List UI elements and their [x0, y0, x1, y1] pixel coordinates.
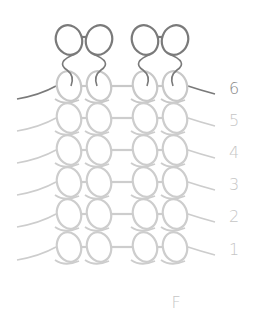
- yarn-lead-out: [188, 214, 215, 222]
- stitch-loop: [160, 100, 191, 135]
- yarn-lead-out: [188, 86, 215, 94]
- yarn-lead-in: [17, 247, 56, 260]
- stitch-loop: [130, 196, 161, 231]
- yarn-lead-in: [17, 214, 56, 227]
- top-loop: [128, 21, 163, 58]
- stitch-loop: [54, 132, 85, 167]
- stitch-row-2: [17, 196, 215, 231]
- stitch-row-6: [17, 68, 215, 103]
- stitch-loop: [130, 68, 161, 103]
- stitch-loop: [84, 164, 115, 199]
- stitch-row-3: [17, 164, 215, 199]
- stitch-loop: [130, 100, 161, 135]
- stitch-loop: [54, 196, 85, 231]
- row-label-5: 5: [229, 111, 239, 130]
- stitch-rows: [17, 68, 215, 264]
- footer-label-f: F: [171, 293, 180, 312]
- row-label-2: 2: [229, 207, 239, 226]
- stitch-loop: [84, 132, 115, 167]
- stitch-loop: [130, 132, 161, 167]
- top-loop: [158, 21, 193, 58]
- stitch-loop: [130, 164, 161, 199]
- stitch-loop: [130, 229, 161, 264]
- stitch-row-4: [17, 132, 215, 167]
- stitch-loop: [54, 68, 85, 103]
- stitch-diagram: 654321 F: [0, 0, 255, 325]
- stitch-row-5: [17, 100, 215, 135]
- stitch-row-1: [17, 229, 215, 264]
- top-loop: [52, 21, 87, 58]
- stitch-loop: [160, 229, 191, 264]
- yarn-lead-in: [17, 86, 56, 99]
- yarn-lead-in: [17, 182, 56, 195]
- stitch-loop: [54, 229, 85, 264]
- row-labels: 654321: [229, 79, 239, 259]
- stitch-loop: [160, 164, 191, 199]
- yarn-lead-out: [188, 182, 215, 190]
- stitch-loop: [160, 68, 191, 103]
- stitch-loop: [54, 100, 85, 135]
- stitch-loop: [84, 229, 115, 264]
- yarn-lead-in: [17, 118, 56, 131]
- stitch-loop: [84, 196, 115, 231]
- row-label-4: 4: [229, 143, 239, 162]
- row-label-3: 3: [229, 175, 239, 194]
- stitch-loop: [84, 100, 115, 135]
- stitch-loop: [84, 68, 115, 103]
- stitch-loop: [54, 164, 85, 199]
- yarn-lead-out: [188, 118, 215, 126]
- yarn-lead-out: [188, 247, 215, 255]
- stitch-loop: [160, 132, 191, 167]
- stitch-loop: [160, 196, 191, 231]
- yarn-lead-out: [188, 150, 215, 158]
- row-label-1: 1: [229, 240, 239, 259]
- top-loop: [82, 21, 117, 58]
- yarn-lead-in: [17, 150, 56, 163]
- row-label-6: 6: [229, 79, 239, 98]
